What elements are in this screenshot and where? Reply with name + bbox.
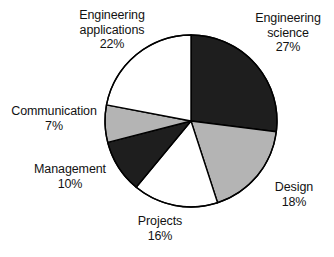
slice-label-line2: science [246,26,330,41]
slice-value: 10% [18,177,122,192]
slice-value: 22% [54,37,170,52]
slice-label-design: Design 18% [259,180,329,209]
slice-label-line1: Design [259,180,329,195]
slice-label-communication: Communication 7% [2,104,106,133]
slice-label-line1: Communication [2,104,106,119]
slice-label-projects: Projects 16% [120,214,200,243]
pie-chart: Engineering applications 22% Engineering… [0,0,334,257]
pie-slices-group [105,35,277,207]
slice-label-management: Management 10% [18,162,122,191]
slice-label-engineering-science: Engineering science 27% [246,11,330,55]
slice-label-line1: Projects [120,214,200,229]
slice-value: 16% [120,229,200,244]
slice-label-line1: Management [18,162,122,177]
slice-label-line1: Engineering [246,11,330,26]
slice-value: 18% [259,195,329,210]
slice-label-line1: Engineering [54,8,170,23]
slice-label-line2: applications [54,23,170,38]
slice-value: 27% [246,40,330,55]
slice-value: 7% [2,119,106,134]
slice-label-engineering-applications: Engineering applications 22% [54,8,170,52]
